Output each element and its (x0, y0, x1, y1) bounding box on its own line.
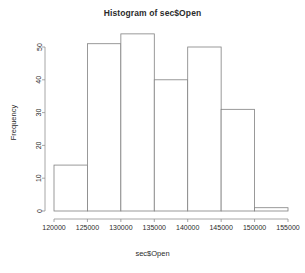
y-tick-label: 0 (36, 209, 43, 213)
x-tick-label: 150000 (243, 224, 266, 231)
x-tick-label: 135000 (143, 224, 166, 231)
y-tick-label: 20 (36, 141, 43, 149)
y-tick-label: 50 (36, 43, 43, 51)
y-tick-label: 40 (36, 76, 43, 84)
histogram-bar (154, 80, 187, 211)
y-tick-label: 10 (36, 174, 43, 182)
histogram-plot: Histogram of sec$Open Frequency sec$Open… (0, 0, 305, 273)
y-axis: 01020304050 (36, 43, 46, 213)
x-axis: 1200001250001300001350001400001450001500… (42, 219, 299, 231)
plot-canvas: 01020304050 1200001250001300001350001400… (0, 0, 305, 273)
x-tick-label: 125000 (76, 224, 99, 231)
x-tick-label: 145000 (209, 224, 232, 231)
histogram-bar (54, 165, 87, 211)
x-tick-label: 130000 (109, 224, 132, 231)
histogram-bar (121, 34, 154, 211)
x-tick-label: 155000 (276, 224, 299, 231)
x-tick-label: 140000 (176, 224, 199, 231)
histogram-bar (221, 109, 254, 211)
histogram-bar (255, 208, 288, 211)
histogram-bar (87, 44, 120, 211)
bars-group (54, 34, 288, 211)
histogram-bar (188, 47, 221, 211)
y-tick-label: 30 (36, 109, 43, 117)
x-tick-label: 120000 (42, 224, 65, 231)
